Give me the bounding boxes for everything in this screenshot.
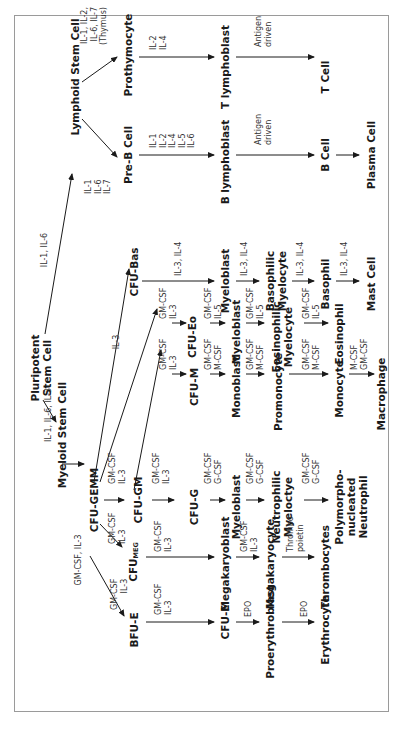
cytokine-to-myeloid: IL-1, IL-6, IL-3 xyxy=(44,388,54,442)
cytokine: IL-1 xyxy=(84,179,94,194)
cytokine: M-CSF xyxy=(350,339,360,370)
cytokine: Antigen xyxy=(254,16,264,47)
cytokines-meg2: GM-CSF IL-3 xyxy=(240,521,259,552)
cytokine-e2: EPO xyxy=(244,601,254,617)
cytokine: IL-5 xyxy=(214,288,224,319)
cytokine: IL-3 xyxy=(164,584,174,615)
node-cfu-meg: CFUMEG xyxy=(127,542,142,582)
cytokine: driven xyxy=(264,114,274,145)
cytokine: GM-CSF xyxy=(246,288,256,319)
node-b-lymphoblast: B lymphoblast xyxy=(219,120,231,205)
cytokine-to-lymphoid: IL-1, IL-6 xyxy=(40,233,50,267)
node-eosinophil: Eosinophil xyxy=(333,303,345,364)
cytokines-prothymocyte: IL-2 IL-4 xyxy=(149,35,168,50)
cytokine: GM-CSF xyxy=(302,288,312,319)
cytokine-myeloid-to-gemm: GM-CSF, IL-3 xyxy=(74,535,84,586)
node-polymorphonucleated-neutrophil: Polymorpho- xyxy=(333,469,345,544)
cytokine-bas4: IL-3, IL-4 xyxy=(340,242,350,276)
cytokine-e3: EPO xyxy=(300,601,310,617)
cytokine: IL-5 xyxy=(256,288,266,319)
node-mast-cell: Mast Cell xyxy=(365,257,377,311)
node-monoblast: Monoblast xyxy=(230,356,242,418)
node-pluripotent: Pluripotent xyxy=(29,335,41,402)
cytokines-m0: GM-CSF IL-3 xyxy=(159,339,178,370)
cytokine: IL-3 xyxy=(169,339,179,370)
cytokine-bas1: IL-3, IL-4 xyxy=(174,242,184,276)
cytokine: GM-CSF xyxy=(204,288,214,319)
cytokine: driven xyxy=(264,16,274,47)
node-erythrocyte: Erythrocyte xyxy=(319,595,331,664)
cytokine: (Thymus) xyxy=(99,7,109,67)
cytokine: G-CSF xyxy=(214,453,224,484)
cytokines-b-antigen: Antigen driven xyxy=(254,114,273,145)
cytokines-m1: GM-CSF M-CSF xyxy=(204,339,223,370)
cytokine: IL-5 xyxy=(178,133,188,148)
node-cfu-m: CFU-M xyxy=(188,368,200,406)
cytokines-lymphoid: IL-1 IL-6 IL-7 xyxy=(84,179,113,194)
cytokine: M-CSF xyxy=(256,339,266,370)
cytokine: GM-CSF xyxy=(159,339,169,370)
cytokines-eo3: GM-CSF IL-5 xyxy=(302,288,321,319)
node-cfu-eo: CFU-Eo xyxy=(186,316,198,358)
cytokine: GM-CSF xyxy=(108,513,118,544)
cytokine: IL-3 xyxy=(162,453,172,484)
cytokine: IL-2 xyxy=(149,35,159,50)
node-cfu-g: CFU-G xyxy=(188,489,200,525)
cfu-meg-subscript: MEG xyxy=(132,542,140,558)
cytokine: IL-7 xyxy=(103,179,113,194)
cytokines-pre-b: IL-1 IL-2 IL-4 IL-5 IL-6 xyxy=(149,133,197,148)
cytokine: G-CSF xyxy=(312,453,322,484)
cytokine-bas2: IL-3, IL-4 xyxy=(240,242,250,276)
cytokines-gm-to-g: GM-CSF IL-3 xyxy=(152,453,171,484)
cytokine: IL-4 xyxy=(168,133,178,148)
cytokine: GM-CSF xyxy=(302,339,312,370)
cytokine: GM-CSF xyxy=(204,453,214,484)
node-cfu-gemm: CFU-GEMM xyxy=(88,468,100,532)
cytokine: GM-CSF xyxy=(154,584,164,615)
cytokines-m3: GM-CSF M-CSF xyxy=(302,339,321,370)
cytokine: Antigen xyxy=(254,114,264,145)
node-cfu-e: CFU-E xyxy=(219,605,231,640)
hematopoiesis-diagram: Pluripotent Stem Cell IL-1, IL-6 IL-1, I… xyxy=(14,15,389,712)
cytokine: GM-CSF xyxy=(152,453,162,484)
cytokine: GM-CSF xyxy=(246,339,256,370)
cytokine: IL-1, IL-2, xyxy=(80,7,90,67)
cytokines-meg3: Thrombo- poietin xyxy=(286,513,305,552)
cytokines-eo2: GM-CSF IL-5 xyxy=(246,288,265,319)
cytokines-m4: M-CSF GM-CSF xyxy=(350,339,369,370)
cytokine: IL-5 xyxy=(312,288,322,319)
cytokines-meg1: GM-CSF IL-3 xyxy=(154,521,173,552)
node-myeloid-stem-cell: Myeloid Stem Cell xyxy=(56,382,68,488)
cytokine-bas3: IL-3, IL-4 xyxy=(296,242,306,276)
cytokine: G-CSF xyxy=(256,453,266,484)
node-pre-b-cell: Pre-B Cell xyxy=(122,126,134,184)
node-monocyte: Monocyte xyxy=(333,360,345,418)
cytokines-e1: GM-CSF IL-3 xyxy=(154,584,173,615)
cytokine: GM-CSF xyxy=(204,339,214,370)
cytokine: IL-3 xyxy=(118,513,128,544)
node-megakaryoblast: Megakaryoblast xyxy=(219,517,231,612)
cytokines-t-antigen: Antigen driven xyxy=(254,16,273,47)
cytokine: IL-3 xyxy=(250,521,260,552)
cytokine: GM-CSF xyxy=(302,453,312,484)
cytokines-thymus: IL-1, IL-2, IL-6, IL-7 (Thymus) xyxy=(80,7,109,67)
cytokine: IL-4 xyxy=(159,35,169,50)
cytokine: Thrombo- xyxy=(286,513,296,552)
cytokine: IL-6 xyxy=(94,179,104,194)
cytokines-gemm-to-meg: GM-CSF IL-3 xyxy=(108,513,127,544)
cytokine: GM-CSF xyxy=(108,453,118,484)
cytokine: IL-1 xyxy=(149,133,159,148)
cytokine: GM-CSF xyxy=(246,453,256,484)
cytokine: M-CSF xyxy=(214,339,224,370)
cytokine: M-CSF xyxy=(312,339,322,370)
cytokine: IL-3 xyxy=(164,521,174,552)
cytokine: GM-CSF xyxy=(110,579,120,610)
cytokines-eo1: GM-CSF IL-5 xyxy=(204,288,223,319)
node-macrophage: Macrophage xyxy=(375,358,387,431)
node-bfu-e: BFU-E xyxy=(128,612,140,647)
node-t-cell: T Cell xyxy=(319,61,331,94)
cytokines-eo0: GM-CSF IL-3 xyxy=(159,288,178,319)
node-polymorphonucleated-neutrophil-line2: nucleated xyxy=(345,478,357,537)
node-b-cell: B Cell xyxy=(319,138,331,172)
cytokine: poietin xyxy=(296,513,306,552)
